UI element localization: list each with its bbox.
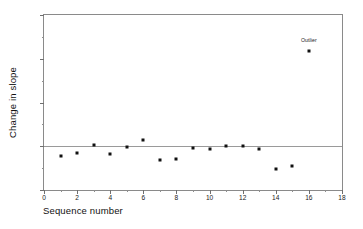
plot-area: -.10.0.1.2.3024681012141618Outlier	[44, 15, 342, 190]
data-point	[125, 145, 128, 148]
x-axis-minor-tick	[127, 190, 128, 192]
data-point	[175, 158, 178, 161]
data-point	[241, 145, 244, 148]
data-point	[76, 152, 79, 155]
x-axis-tick-label: 8	[175, 194, 179, 201]
x-axis-tick-label: 12	[239, 194, 246, 201]
x-axis-minor-tick	[94, 190, 95, 192]
x-axis-tick-label: 14	[272, 194, 279, 201]
y-axis-minor-tick	[42, 168, 44, 169]
data-point	[291, 164, 294, 167]
data-point	[208, 147, 211, 150]
data-point	[192, 147, 195, 150]
y-axis-tick	[40, 59, 44, 60]
plot-frame: -.10.0.1.2.3024681012141618Outlier	[43, 14, 343, 191]
y-axis-tick	[40, 146, 44, 147]
outlier-annotation-label: Outlier	[301, 37, 317, 43]
y-axis-title: Change in slope	[5, 14, 19, 191]
scatter-chart-figure: Change in slope -.10.0.1.2.3024681012141…	[0, 0, 363, 229]
x-axis-minor-tick	[259, 190, 260, 192]
data-point	[59, 154, 62, 157]
y-axis-title-text: Change in slope	[7, 67, 18, 138]
x-axis-tick-label: 10	[206, 194, 213, 201]
data-point	[274, 168, 277, 171]
y-axis-tick	[40, 103, 44, 104]
x-axis-tick-label: 4	[108, 194, 112, 201]
x-axis-tick-label: 6	[141, 194, 145, 201]
x-axis-title: Sequence number	[43, 205, 123, 216]
data-point	[307, 49, 310, 52]
x-axis-minor-tick	[292, 190, 293, 192]
x-axis-tick-label: 16	[305, 194, 312, 201]
x-axis-tick-label: 2	[75, 194, 79, 201]
data-point	[258, 148, 261, 151]
y-axis-minor-tick	[42, 81, 44, 82]
data-point	[225, 144, 228, 147]
y-axis-tick	[40, 15, 44, 16]
x-axis-minor-tick	[193, 190, 194, 192]
x-axis-minor-tick	[160, 190, 161, 192]
y-axis-minor-tick	[42, 37, 44, 38]
data-point	[109, 153, 112, 156]
data-point	[92, 143, 95, 146]
data-point	[142, 139, 145, 142]
data-point	[158, 158, 161, 161]
x-axis-tick-label: 0	[42, 194, 46, 201]
x-axis-minor-tick	[226, 190, 227, 192]
x-axis-tick-label: 18	[338, 194, 345, 201]
x-axis-minor-tick	[325, 190, 326, 192]
y-axis-minor-tick	[42, 124, 44, 125]
x-axis-minor-tick	[61, 190, 62, 192]
